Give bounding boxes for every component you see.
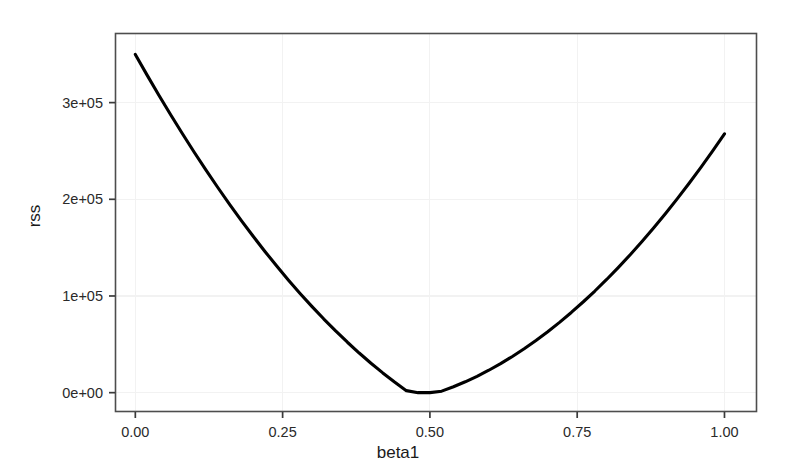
y-tick-label: 0e+00 (62, 385, 103, 401)
x-tick-label: 0.25 (268, 424, 296, 440)
panel-background (115, 33, 757, 412)
y-tick-label: 2e+05 (62, 191, 103, 207)
y-tick-label: 1e+05 (62, 288, 103, 304)
y-tick-label: 3e+05 (62, 95, 103, 111)
x-tick-label: 0.00 (121, 424, 149, 440)
x-tick-label: 0.50 (416, 424, 444, 440)
x-tick-label: 0.75 (563, 424, 591, 440)
x-axis-title: beta1 (377, 443, 420, 463)
plot-canvas (0, 0, 791, 472)
y-axis-tick-marks (109, 103, 115, 393)
rss-vs-beta1-plot: rss beta1 0e+001e+052e+053e+05 0.000.250… (0, 0, 791, 472)
x-tick-label: 1.00 (710, 424, 738, 440)
y-axis-title: rss (25, 205, 45, 228)
x-axis-tick-marks (135, 412, 724, 418)
